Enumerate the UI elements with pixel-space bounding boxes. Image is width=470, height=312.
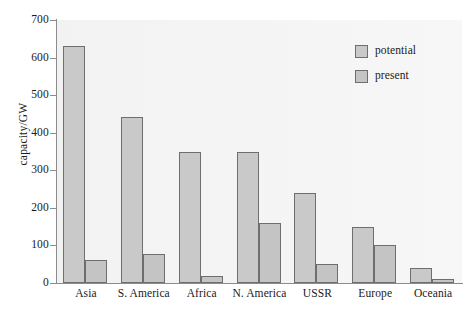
x-tick-label: N. America bbox=[231, 288, 289, 300]
capacity-bar-chart: 0100200300400500600700 AsiaS. AmericaAfr… bbox=[0, 0, 470, 312]
legend-label-present: present bbox=[375, 70, 409, 82]
x-tick-label: USSR bbox=[288, 288, 346, 300]
x-tick-label: Asia bbox=[57, 288, 115, 300]
chart-legend: potential present bbox=[355, 44, 416, 94]
y-tick-label: 100 bbox=[0, 239, 49, 251]
legend-swatch-present bbox=[355, 70, 368, 83]
x-tick-label: Europe bbox=[346, 288, 404, 300]
y-tick-label: 600 bbox=[0, 52, 49, 64]
y-axis-line bbox=[56, 19, 57, 284]
y-tick-label: 0 bbox=[0, 277, 49, 289]
legend-swatch-potential bbox=[355, 45, 368, 58]
legend-item-present: present bbox=[355, 69, 416, 83]
y-tick-label: 700 bbox=[0, 14, 49, 26]
x-tick-label: Oceania bbox=[404, 288, 462, 300]
y-tick-label: 200 bbox=[0, 202, 49, 214]
legend-label-potential: potential bbox=[375, 45, 416, 57]
x-tick-label: S. America bbox=[115, 288, 173, 300]
legend-item-potential: potential bbox=[355, 44, 416, 58]
x-tick-label: Africa bbox=[173, 288, 231, 300]
y-axis-title: capacity/GW bbox=[17, 74, 29, 194]
x-axis-line bbox=[56, 283, 463, 284]
